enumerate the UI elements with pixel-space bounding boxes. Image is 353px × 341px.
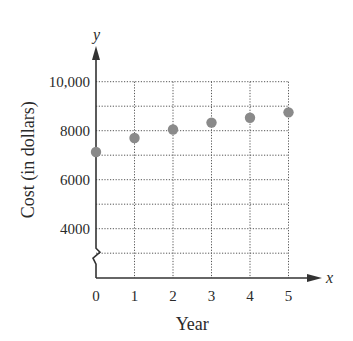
data-point [283,107,293,117]
scatter-chart: yx01234540006000800010,000YearCost (in d… [0,0,353,341]
y-tick-label: 4000 [60,221,90,237]
x-tick-label: 4 [246,288,254,304]
y-tick-label: 6000 [60,172,90,188]
x-axis-label: Year [176,314,209,334]
x-tick-label: 3 [208,288,216,304]
x-axis-variable: x [325,269,333,286]
y-tick-label: 8000 [60,123,90,139]
y-axis [93,55,100,278]
x-tick-label: 0 [92,288,100,304]
y-axis-label: Cost (in dollars) [18,101,39,218]
y-axis-variable: y [91,26,101,44]
data-point [206,117,216,127]
data-point [91,147,101,157]
x-tick-label: 2 [169,288,177,304]
data-point [245,113,255,123]
y-tick-label: 10,000 [49,74,90,90]
data-point [129,133,139,143]
data-point [168,124,178,134]
x-axis-arrow-icon [307,274,322,282]
y-axis-arrow-icon [92,46,100,60]
x-tick-label: 5 [285,288,293,304]
x-tick-label: 1 [131,288,139,304]
